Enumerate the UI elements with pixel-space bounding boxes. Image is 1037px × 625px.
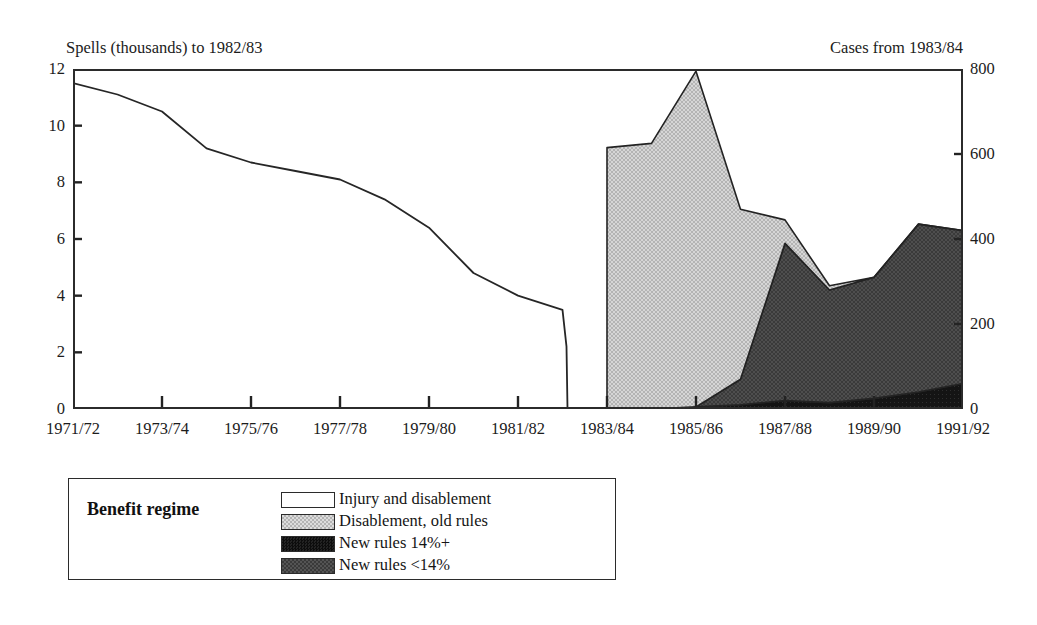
chart-page: Spells (thousands) to 1982/83 Cases from… <box>0 0 1037 625</box>
x-axis-tick-label: 1981/82 <box>491 419 545 439</box>
x-axis-tick-label: 1975/76 <box>224 419 278 439</box>
legend-item[interactable]: New rules 14%+ <box>281 533 491 554</box>
legend-swatch-new-rules-14-plus <box>281 536 335 552</box>
y-axis-right-tick-label: 200 <box>970 314 1030 334</box>
legend-swatch-injury-and-disablement <box>281 492 335 508</box>
y-axis-left-tick-label: 8 <box>25 172 65 192</box>
x-axis-tick-label: 1983/84 <box>580 419 634 439</box>
legend-title: Benefit regime <box>87 499 199 520</box>
plot-area <box>73 69 963 409</box>
legend-item-label: New rules <14% <box>339 557 450 574</box>
legend-item-label: Disablement, old rules <box>339 513 488 530</box>
y-axis-left-tick-label: 12 <box>25 59 65 79</box>
x-axis-tick-label: 1985/86 <box>669 419 723 439</box>
x-axis-tick-label: 1971/72 <box>46 419 100 439</box>
y-axis-left-tick-label: 4 <box>25 286 65 306</box>
left-axis-caption: Spells (thousands) to 1982/83 <box>66 38 263 58</box>
chart-figure: Spells (thousands) to 1982/83 Cases from… <box>0 0 1037 455</box>
y-axis-right-tick-label: 600 <box>970 144 1030 164</box>
legend-item-list: Injury and disablementDisablement, old r… <box>281 489 491 577</box>
legend-item-label: Injury and disablement <box>339 491 491 508</box>
y-axis-left-tick-label: 6 <box>25 229 65 249</box>
right-axis-caption: Cases from 1983/84 <box>830 38 963 58</box>
legend: Benefit regime Injury and disablementDis… <box>68 478 616 580</box>
line-injury-and-disablement <box>73 83 568 409</box>
y-axis-left-tick-label: 2 <box>25 342 65 362</box>
y-axis-right-tick-label: 400 <box>970 229 1030 249</box>
y-axis-right-tick-label: 800 <box>970 59 1030 79</box>
x-axis-tick-label: 1991/92 <box>936 419 990 439</box>
legend-item-label: New rules 14%+ <box>339 535 450 552</box>
x-axis-tick-label: 1979/80 <box>402 419 456 439</box>
chart-canvas <box>73 69 963 409</box>
y-axis-right-tick-label: 0 <box>970 399 1030 419</box>
y-axis-left-tick-label: 0 <box>25 399 65 419</box>
legend-swatch-disablement-old-rules <box>281 514 335 530</box>
legend-item[interactable]: New rules <14% <box>281 555 491 576</box>
x-axis-tick-label: 1973/74 <box>135 419 189 439</box>
legend-swatch-new-rules-under-14 <box>281 558 335 574</box>
x-axis-tick-label: 1987/88 <box>758 419 812 439</box>
y-axis-left-tick-label: 10 <box>25 116 65 136</box>
x-axis-tick-label: 1989/90 <box>847 419 901 439</box>
legend-item[interactable]: Injury and disablement <box>281 489 491 510</box>
legend-item[interactable]: Disablement, old rules <box>281 511 491 532</box>
x-axis-tick-label: 1977/78 <box>313 419 367 439</box>
